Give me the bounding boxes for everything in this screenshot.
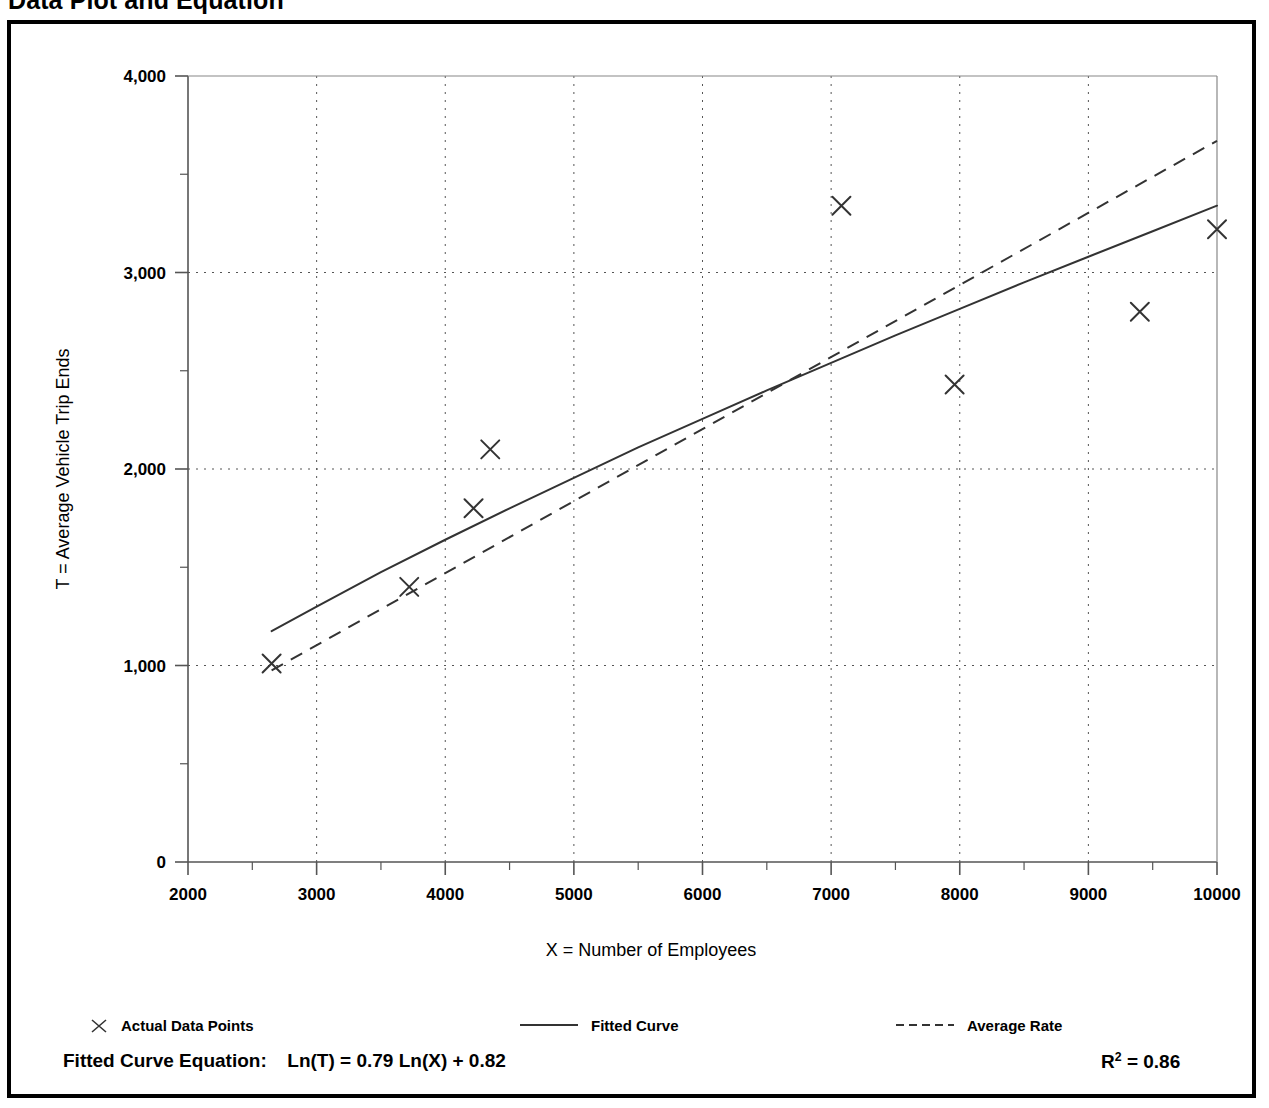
y-axis-ticks <box>175 76 188 862</box>
equation-prefix: Fitted Curve Equation: <box>63 1050 267 1071</box>
r-squared-exponent: 2 <box>1115 1050 1122 1064</box>
data-point-marker <box>481 440 499 458</box>
y-tick-label: 3,000 <box>123 264 166 283</box>
y-tick-label: 0 <box>157 853 166 872</box>
dashed-line-icon <box>895 1017 955 1033</box>
r-squared-symbol: R <box>1101 1051 1115 1072</box>
y-tick-label: 2,000 <box>123 460 166 479</box>
legend-item-fitted-curve: Fitted Curve <box>519 1008 679 1042</box>
r-squared-number: = 0.86 <box>1127 1051 1180 1072</box>
solid-line-icon <box>519 1017 579 1033</box>
x-tick-label: 7000 <box>812 885 850 904</box>
series-actual-data-points <box>263 197 1226 673</box>
x-tick-label: 5000 <box>555 885 593 904</box>
plot-area: 01,0002,0003,0004,000 200030004000500060… <box>11 24 1260 1102</box>
equation-row: Fitted Curve Equation: Ln(T) = 0.79 Ln(X… <box>11 1050 1260 1086</box>
fitted-curve-line <box>272 206 1217 631</box>
y-tick-label: 4,000 <box>123 67 166 86</box>
x-tick-label: 9000 <box>1069 885 1107 904</box>
x-tick-label: 6000 <box>684 885 722 904</box>
x-axis-ticks <box>188 862 1217 875</box>
figure-frame: 01,0002,0003,0004,000 200030004000500060… <box>7 20 1256 1098</box>
x-marker-icon <box>89 1017 109 1033</box>
x-tick-label: 4000 <box>426 885 464 904</box>
y-tick-label: 1,000 <box>123 657 166 676</box>
equation-formula: Ln(T) = 0.79 Ln(X) + 0.82 <box>287 1050 506 1071</box>
y-axis-tick-labels: 01,0002,0003,0004,000 <box>123 67 166 872</box>
data-point-marker <box>946 376 964 394</box>
x-tick-label: 2000 <box>169 885 207 904</box>
x-axis-title: X = Number of Employees <box>546 940 757 960</box>
data-point-marker <box>465 499 483 517</box>
fitted-curve-equation: Fitted Curve Equation: Ln(T) = 0.79 Ln(X… <box>63 1050 506 1072</box>
scatter-plot: 01,0002,0003,0004,000 200030004000500060… <box>11 24 1260 1102</box>
x-axis-tick-labels: 2000300040005000600070008000900010000 <box>169 885 1241 904</box>
legend-label-average-rate: Average Rate <box>967 1017 1062 1034</box>
legend-item-actual-data-points: Actual Data Points <box>89 1008 254 1042</box>
x-tick-label: 10000 <box>1193 885 1240 904</box>
legend-label-actual-data-points: Actual Data Points <box>121 1017 254 1034</box>
page-title: Data Plot and Equation <box>8 0 284 15</box>
y-axis-title: T = Average Vehicle Trip Ends <box>53 349 73 590</box>
chart-legend: Actual Data Points Fitted Curve Average … <box>11 1008 1260 1042</box>
data-point-marker <box>832 197 850 215</box>
x-tick-label: 8000 <box>941 885 979 904</box>
x-tick-label: 3000 <box>298 885 336 904</box>
legend-label-fitted-curve: Fitted Curve <box>591 1017 679 1034</box>
r-squared-value: R2 = 0.86 <box>1101 1050 1180 1073</box>
series-fitted-curve <box>272 206 1217 631</box>
data-point-marker <box>1131 303 1149 321</box>
legend-item-average-rate: Average Rate <box>895 1008 1062 1042</box>
